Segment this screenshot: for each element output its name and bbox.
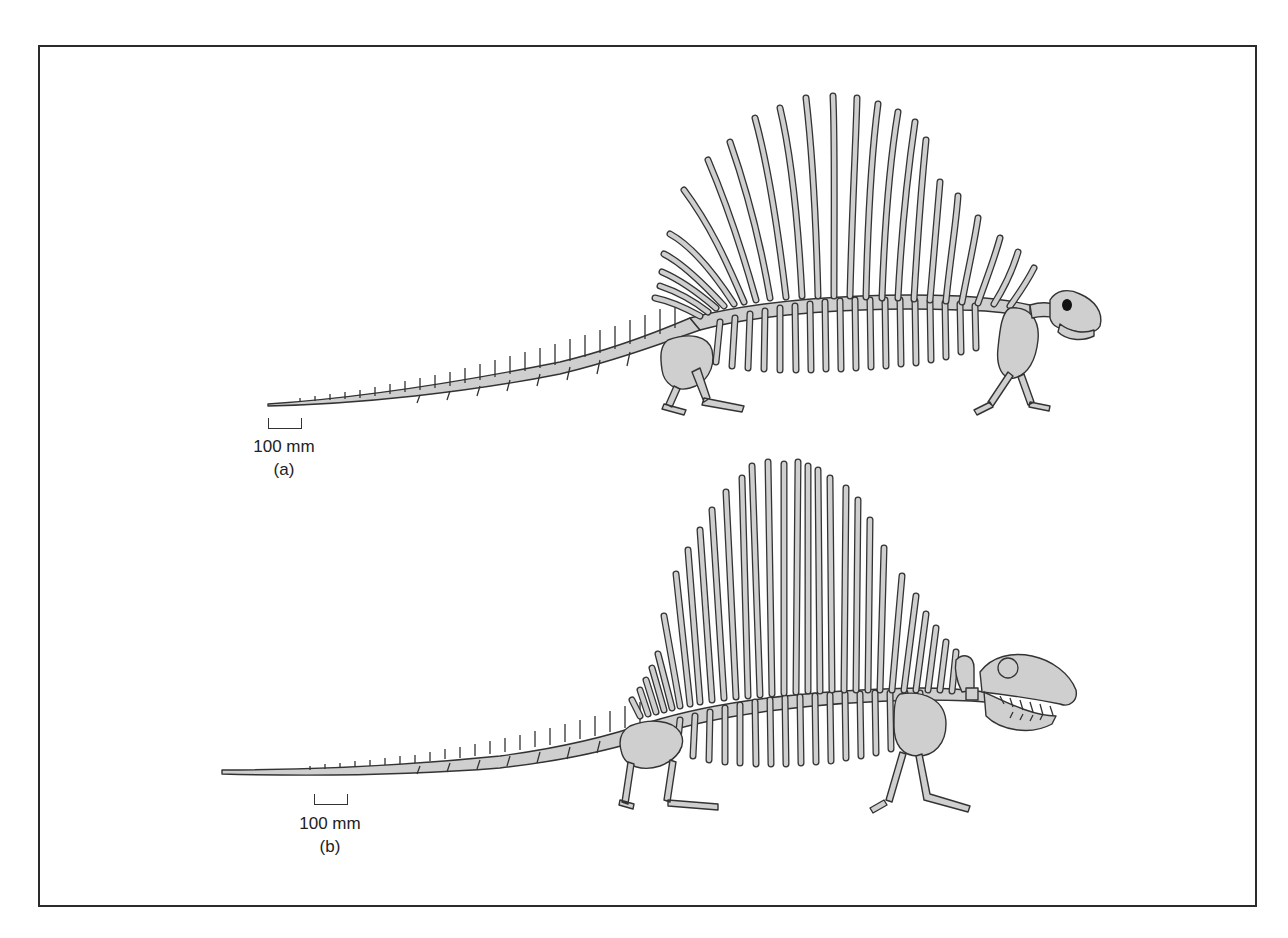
- scale-bar-a: [268, 418, 302, 429]
- scale-bar-b: [314, 794, 348, 805]
- panel-label-b: (b): [290, 837, 370, 857]
- scale-text-a: 100 mm: [244, 437, 324, 457]
- figure-illustration: .b{fill:#cfcfcf;stroke:#333;stroke-width…: [0, 0, 1288, 938]
- skeleton-b: [222, 462, 1076, 813]
- hindlimb-b: [664, 760, 718, 810]
- skeleton-a: [268, 96, 1101, 415]
- eye-a: [1062, 299, 1072, 311]
- forelimb-b: [870, 752, 906, 813]
- panel-label-a: (a): [244, 460, 324, 480]
- shoulder-b: [894, 693, 946, 756]
- tail-b: [222, 722, 660, 775]
- hindlimb-a: [692, 368, 744, 412]
- skull-a: [1050, 291, 1101, 333]
- forelimb-a: [974, 372, 1013, 415]
- scale-text-b: 100 mm: [290, 814, 370, 834]
- sail-spines-a: [655, 96, 1034, 316]
- tail-a: [268, 318, 700, 406]
